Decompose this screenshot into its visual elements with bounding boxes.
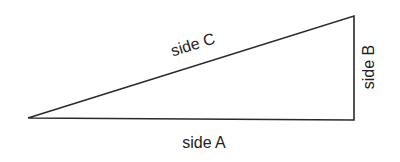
triangle-diagram: side C side A side B — [0, 0, 400, 162]
label-side-b: side B — [360, 45, 377, 89]
label-side-c: side C — [169, 30, 217, 60]
label-side-a: side A — [182, 134, 226, 151]
right-triangle — [28, 16, 354, 120]
